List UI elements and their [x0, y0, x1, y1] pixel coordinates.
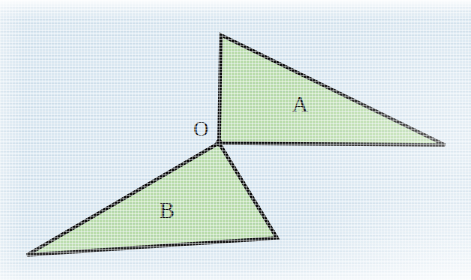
triangle-a-label: A [292, 92, 309, 117]
triangle-a-shape [219, 35, 445, 145]
triangle-b-label: B [159, 198, 174, 223]
vertex-o-label: O [193, 117, 208, 141]
figure-svg: A B O [0, 0, 471, 280]
triangle-b-shape [27, 143, 277, 255]
geometry-figure-canvas: A B O [0, 0, 471, 280]
vertex-o-dot [216, 140, 223, 147]
